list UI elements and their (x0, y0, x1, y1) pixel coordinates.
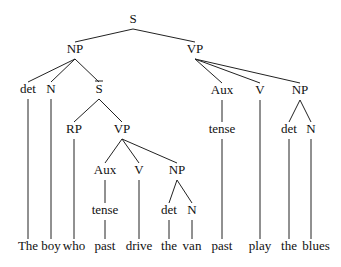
tree-edge (28, 59, 75, 82)
tree-edge (75, 59, 99, 82)
node-label-v2: V (134, 162, 144, 177)
node-label-s: S (129, 11, 136, 26)
tree-nodes: SNPVPdetNSRPVPAuxVNPtensedetNAuxVNPtense… (20, 11, 316, 217)
node-label-n1: N (46, 81, 56, 96)
node-label-n3: N (306, 121, 316, 136)
leaf-word: past (95, 238, 116, 253)
tree-edge (300, 100, 311, 122)
tree-edge (169, 180, 177, 203)
tree-edge (133, 29, 195, 42)
tree-edge (195, 59, 222, 83)
node-label-np2: NP (169, 162, 186, 177)
node-label-np1: NP (67, 41, 84, 56)
leaf-word: the (281, 238, 297, 253)
node-label-det2: det (161, 202, 177, 217)
node-label-vp1: VP (187, 41, 204, 56)
leaf-word: play (249, 238, 272, 253)
tree-edge (195, 59, 300, 83)
node-label-det1: det (20, 81, 36, 96)
node-label-tense2: tense (92, 202, 119, 217)
node-label-np3: NP (292, 82, 309, 97)
leaf-word: who (63, 238, 85, 253)
leaf-word: drive (126, 238, 153, 253)
tree-edge (75, 29, 133, 42)
tree-edge (105, 139, 122, 163)
node-label-rp: RP (66, 121, 82, 136)
tree-edge (74, 99, 99, 122)
tree-leaves: Theboywhopastdrivethevanpastplaytheblues (18, 238, 330, 253)
tree-edge (195, 59, 260, 83)
node-label-vp2: VP (114, 121, 131, 136)
tree-edge (289, 100, 300, 122)
leaf-word: boy (41, 238, 61, 253)
leaf-word: the (161, 238, 177, 253)
syntax-tree-diagram: SNPVPdetNSRPVPAuxVNPtensedetNAuxVNPtense… (0, 0, 341, 267)
node-label-aux2: Aux (94, 162, 117, 177)
leaf-word: blues (302, 238, 329, 253)
leaf-word: van (183, 238, 202, 253)
tree-edge (99, 99, 122, 122)
node-label-n2: N (187, 202, 197, 217)
node-label-v1: V (255, 82, 265, 97)
tree-edge (177, 180, 192, 203)
node-label-sbar: S (95, 81, 102, 96)
node-label-det3: det (281, 121, 297, 136)
node-label-tense1: tense (209, 121, 236, 136)
node-label-aux1: Aux (211, 82, 234, 97)
leaf-word: The (18, 238, 38, 253)
tree-edge (51, 59, 75, 82)
leaf-word: past (212, 238, 233, 253)
